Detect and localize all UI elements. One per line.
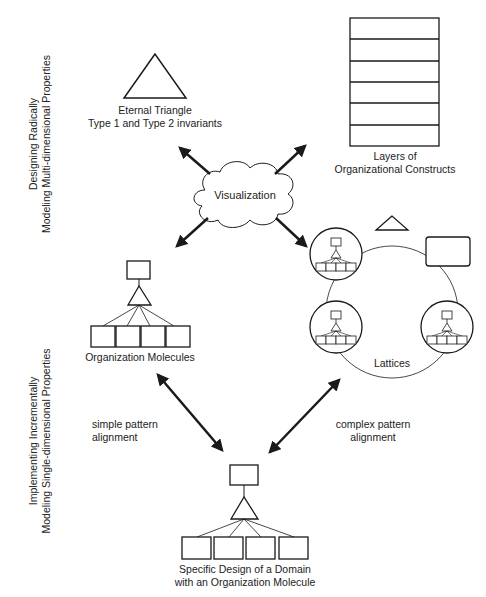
arrow-to-layers <box>275 146 305 174</box>
eternal-triangle-icon <box>124 54 186 98</box>
simple-alignment-label: simple pattern alignment <box>92 418 182 444</box>
specific-design-subtitle: with an Organization Molecule <box>165 576 325 589</box>
org-molecule-icon <box>91 261 190 347</box>
specific-design-title: Specific Design of a Domain <box>165 563 325 576</box>
arrow-to-eternal-triangle <box>180 148 210 174</box>
layers-stack-icon <box>350 18 439 146</box>
arrow-to-lattices <box>276 218 306 246</box>
simple-alignment-line1: simple pattern <box>92 418 182 431</box>
eternal-triangle-subtitle: Type 1 and Type 2 invariants <box>85 117 225 130</box>
side-label-top-line2: Modeling Multi-dimensional Properties <box>40 44 53 244</box>
specific-design-molecule-icon <box>182 465 308 559</box>
side-label-designing: Designing Radically Modeling Multi-dimen… <box>27 44 53 244</box>
simple-alignment-line2: alignment <box>92 431 182 444</box>
eternal-triangle-label: Eternal Triangle Type 1 and Type 2 invar… <box>85 104 225 130</box>
layers-title: Layers of <box>330 150 460 163</box>
complex-alignment-line1: complex pattern <box>318 418 428 431</box>
side-label-top-line1: Designing Radically <box>27 44 40 244</box>
diagram-canvas <box>0 0 486 597</box>
side-label-implementing: Implementing Incrementally Modeling Sing… <box>27 341 53 541</box>
side-label-bottom-line1: Implementing Incrementally <box>27 341 40 541</box>
layers-subtitle: Organizational Constructs <box>330 163 460 176</box>
complex-alignment-line2: alignment <box>318 431 428 444</box>
lattices-label: Lattices <box>352 357 432 370</box>
lattice-ring-icon <box>310 216 473 378</box>
side-label-bottom-line2: Modeling Single-dimensional Properties <box>40 341 53 541</box>
arrow-to-org-molecules <box>177 218 208 246</box>
visualization-label: Visualization <box>200 189 290 202</box>
org-molecules-label: Organization Molecules <box>75 351 205 364</box>
eternal-triangle-title: Eternal Triangle <box>85 104 225 117</box>
specific-design-label: Specific Design of a Domain with an Orga… <box>165 563 325 589</box>
complex-alignment-label: complex pattern alignment <box>318 418 428 444</box>
layers-label: Layers of Organizational Constructs <box>330 150 460 176</box>
